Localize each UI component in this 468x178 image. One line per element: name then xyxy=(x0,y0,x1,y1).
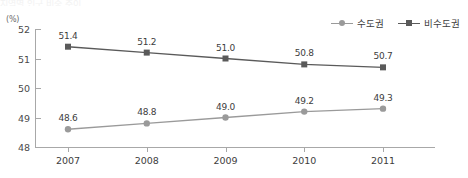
legend-label-0: 수도권 xyxy=(357,16,384,30)
data-label-비수도권-2010: 50.8 xyxy=(295,48,314,58)
data-label-수도권-2010: 49.2 xyxy=(295,96,314,106)
data-point-비수도권-2010[interactable] xyxy=(301,61,307,67)
circle-marker-icon xyxy=(331,19,353,28)
legend: 수도권 비수도권 xyxy=(331,16,460,30)
data-label-수도권-2007: 48.6 xyxy=(59,113,78,123)
data-label-비수도권-2007: 51.4 xyxy=(59,31,78,41)
data-point-수도권-2010[interactable] xyxy=(301,108,307,114)
data-point-수도권-2007[interactable] xyxy=(65,126,71,132)
data-label-수도권-2011: 49.3 xyxy=(374,93,393,103)
legend-item-0[interactable]: 수도권 xyxy=(331,16,384,30)
data-point-수도권-2009[interactable] xyxy=(222,114,228,120)
square-marker-icon xyxy=(398,19,420,28)
data-label-수도권-2008: 48.8 xyxy=(137,107,156,117)
data-label-비수도권-2008: 51.2 xyxy=(137,37,156,47)
data-label-비수도권-2009: 51.0 xyxy=(216,43,235,53)
data-point-비수도권-2007[interactable] xyxy=(65,44,71,50)
legend-item-1[interactable]: 비수도권 xyxy=(398,16,460,30)
data-point-비수도권-2009[interactable] xyxy=(223,56,229,62)
legend-label-1: 비수도권 xyxy=(424,16,460,30)
data-point-비수도권-2011[interactable] xyxy=(380,64,386,70)
line-chart: 지역별 인구 비중 추이 (%) 5251504948 200720082009… xyxy=(0,0,468,178)
data-point-수도권-2011[interactable] xyxy=(380,105,386,111)
data-label-수도권-2009: 49.0 xyxy=(216,102,235,112)
data-label-비수도권-2011: 50.7 xyxy=(374,51,393,61)
data-point-비수도권-2008[interactable] xyxy=(144,50,150,56)
data-point-수도권-2008[interactable] xyxy=(144,120,150,126)
